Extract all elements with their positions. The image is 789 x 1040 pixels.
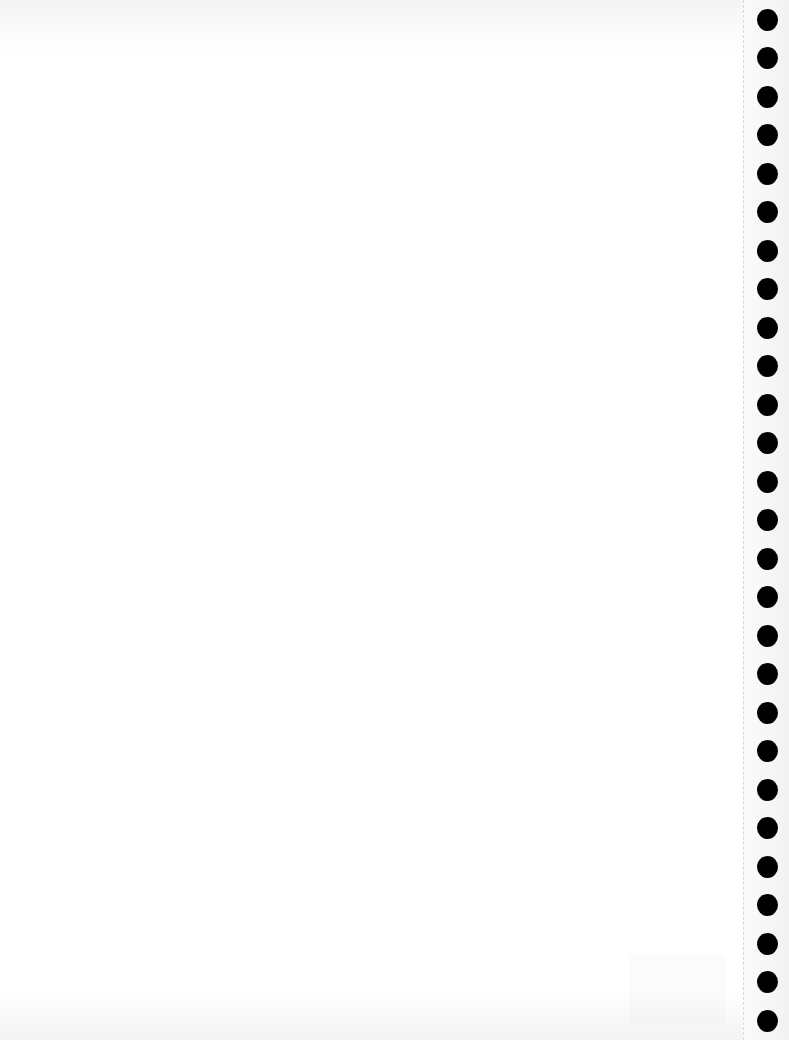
binder-hole-icon xyxy=(757,394,778,416)
blank-page xyxy=(0,0,743,1040)
binder-hole-icon xyxy=(757,509,778,531)
binder-hole-icon xyxy=(757,586,778,608)
binder-hole-icon xyxy=(757,432,778,454)
binder-hole-icon xyxy=(757,740,778,762)
binder-hole-icon xyxy=(757,933,778,955)
binder-hole-icon xyxy=(757,856,778,878)
binder-hole-icon xyxy=(757,201,778,223)
binder-hole-icon xyxy=(757,663,778,685)
binder-hole-icon xyxy=(757,894,778,916)
binder-hole-icon xyxy=(757,124,778,146)
binder-hole-icon xyxy=(757,971,778,993)
binder-hole-icon xyxy=(757,86,778,108)
binder-hole-icon xyxy=(757,548,778,570)
binder-hole-icon xyxy=(757,471,778,493)
binder-hole-icon xyxy=(757,317,778,339)
binder-hole-icon xyxy=(757,163,778,185)
binder-hole-icon xyxy=(757,702,778,724)
binder-hole-icon xyxy=(757,1010,778,1032)
binder-hole-icon xyxy=(757,9,778,31)
binder-hole-icon xyxy=(757,817,778,839)
binder-hole-icon xyxy=(757,240,778,262)
perforation-line xyxy=(743,0,744,1040)
faint-scan-artifact xyxy=(630,955,725,1025)
binder-hole-icon xyxy=(757,779,778,801)
binder-hole-icon xyxy=(757,47,778,69)
binder-hole-icon xyxy=(757,278,778,300)
binder-hole-icon xyxy=(757,355,778,377)
binder-hole-icon xyxy=(757,625,778,647)
